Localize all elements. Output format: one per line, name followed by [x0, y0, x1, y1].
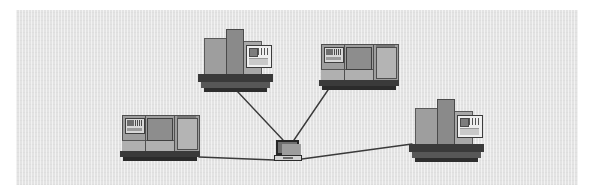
link-bottom-left — [199, 157, 274, 160]
lathe-tailstock — [177, 118, 198, 150]
laptop-touchpad-icon — [283, 157, 293, 159]
machine-control-panel[interactable] — [246, 45, 272, 68]
diagram-canvas — [0, 0, 592, 195]
control-screen-icon — [326, 49, 333, 55]
control-screen-icon — [249, 48, 258, 57]
control-keypad-icon — [258, 48, 268, 55]
machine-control-panel[interactable] — [457, 115, 483, 138]
link-top-left — [237, 91, 283, 140]
machine-base-bottom — [415, 158, 478, 162]
control-keypad-icon — [135, 120, 142, 126]
lathe-control-panel[interactable] — [324, 47, 344, 63]
lathe-viewing-window — [346, 47, 372, 70]
control-panel-band — [326, 57, 341, 60]
link-bottom-right — [302, 144, 412, 159]
lathe-viewing-window — [147, 118, 173, 141]
network-links-layer — [0, 0, 592, 195]
node-laptop-hub[interactable] — [274, 140, 302, 162]
control-screen-icon — [460, 118, 469, 127]
node-machine-top-right[interactable] — [319, 43, 399, 91]
control-screen-icon — [127, 120, 134, 126]
machine-column — [226, 29, 244, 79]
machine-base-bottom — [204, 88, 267, 92]
node-machine-bottom-right[interactable] — [409, 97, 484, 163]
laptop-lid — [276, 140, 299, 155]
machine-column — [437, 99, 455, 149]
machine-base-top — [409, 144, 484, 152]
machine-base-bottom — [123, 157, 197, 161]
node-machine-bottom-left[interactable] — [120, 114, 200, 162]
control-keypad-icon — [469, 118, 479, 125]
lathe-tailstock — [376, 47, 397, 79]
control-panel-band — [249, 58, 268, 65]
laptop-screen — [282, 144, 301, 155]
lathe-control-panel[interactable] — [125, 118, 145, 134]
machine-base-top — [198, 74, 273, 82]
lathe-door-seam-right — [174, 115, 175, 151]
link-top-right — [294, 90, 328, 140]
lathe-door-seam-left — [145, 115, 146, 151]
lathe-door-seam-left — [344, 44, 345, 80]
control-panel-band — [460, 128, 479, 135]
node-machine-top-left[interactable] — [198, 27, 273, 93]
control-panel-band — [127, 128, 142, 131]
control-keypad-icon — [334, 49, 341, 55]
machine-base-bottom — [322, 86, 396, 90]
lathe-door-seam-right — [373, 44, 374, 80]
